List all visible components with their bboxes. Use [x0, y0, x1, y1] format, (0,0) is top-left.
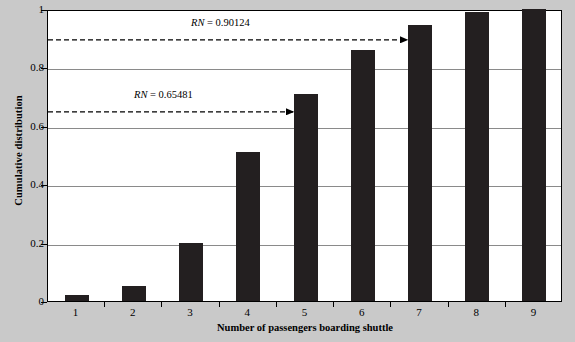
x-tick-label: 9: [513, 307, 553, 318]
x-tick-label: 7: [399, 307, 439, 318]
annotation-label: RN = 0.90124: [191, 17, 250, 28]
y-tick-label: 1: [2, 4, 44, 15]
x-tick-label: 2: [113, 307, 153, 318]
x-tick-mark: [219, 302, 220, 307]
x-tick-label: 3: [170, 307, 210, 318]
x-axis-title: Number of passengers boarding shuttle: [47, 322, 563, 333]
y-tick-label: 0.8: [2, 62, 44, 73]
chart-figure: Cumulative distribution 00.20.40.60.81 1…: [0, 0, 575, 342]
annotation-label: RN = 0.65481: [134, 89, 193, 100]
x-tick-mark: [161, 302, 162, 307]
x-tick-label: 1: [56, 307, 96, 318]
x-tick-label: 5: [285, 307, 325, 318]
x-tick-mark: [448, 302, 449, 307]
x-tick-mark: [390, 302, 391, 307]
x-tick-mark: [276, 302, 277, 307]
x-tick-mark: [333, 302, 334, 307]
annotation-label-value: = 0.65481: [147, 89, 192, 100]
y-axis-ticks: 00.20.40.60.81: [0, 0, 44, 342]
y-tick-label: 0: [2, 296, 44, 307]
annotation-arrows: [48, 11, 563, 303]
annotation-label-value: = 0.90124: [204, 17, 249, 28]
annotation-label-symbol: RN: [134, 89, 147, 100]
y-tick-label: 0.6: [2, 121, 44, 132]
x-tick-label: 8: [456, 307, 496, 318]
x-tick-label: 4: [227, 307, 267, 318]
y-tick-label: 0.2: [2, 238, 44, 249]
y-tick-label: 0.4: [2, 179, 44, 190]
plot-area: [47, 10, 562, 302]
x-tick-mark: [505, 302, 506, 307]
annotation-label-symbol: RN: [191, 17, 204, 28]
x-tick-label: 6: [342, 307, 382, 318]
x-tick-mark: [104, 302, 105, 307]
